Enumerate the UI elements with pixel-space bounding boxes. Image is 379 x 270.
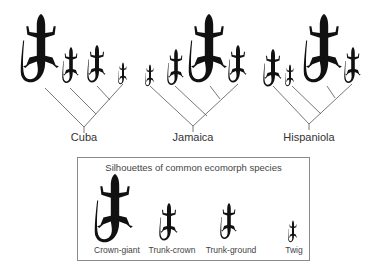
branch-lines bbox=[150, 84, 238, 132]
island-label-hispaniola: Hispaniola bbox=[283, 131, 334, 143]
island-tree-cuba bbox=[21, 14, 127, 133]
lizard-trunk-ground-icon bbox=[62, 47, 78, 83]
lizard-trunk-crown-icon bbox=[228, 45, 246, 82]
lizard-crown-giant-icon bbox=[189, 14, 227, 82]
island-tree-hispaniola bbox=[263, 14, 360, 130]
legend-label-trunk-ground: Trunk-ground bbox=[206, 245, 257, 255]
lizard-trunk-ground-icon bbox=[344, 47, 360, 83]
lizard-twig-icon bbox=[285, 65, 294, 87]
ecomorph-legend-box: Silhouettes of common ecomorph species C… bbox=[77, 157, 310, 261]
island-tree-jamaica bbox=[145, 14, 246, 132]
branch-lines bbox=[45, 84, 123, 133]
lizard-twig-icon bbox=[118, 63, 127, 85]
lizard-crown-giant-icon bbox=[21, 14, 59, 82]
legend-label-twig: Twig bbox=[285, 245, 302, 255]
island-label-jamaica: Jamaica bbox=[173, 131, 214, 143]
legend-label-crown-giant: Crown-giant bbox=[94, 245, 140, 255]
legend-label-trunk-crown: Trunk-crown bbox=[149, 245, 196, 255]
branch-lines bbox=[273, 84, 352, 130]
lizard-trunk-crown-icon bbox=[263, 49, 281, 86]
legend-title: Silhouettes of common ecomorph species bbox=[78, 162, 309, 173]
lizard-crown-giant-icon bbox=[304, 14, 342, 82]
lizard-twig-icon bbox=[145, 65, 154, 87]
island-label-cuba: Cuba bbox=[71, 131, 97, 143]
lizard-trunk-ground-icon bbox=[167, 49, 183, 85]
lizard-trunk-crown-icon bbox=[87, 45, 105, 82]
